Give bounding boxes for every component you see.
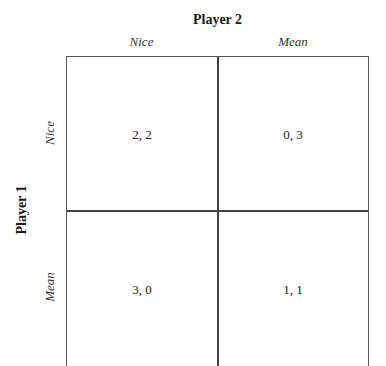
payoff-cell-nice-nice: 2, 2 [67, 127, 217, 143]
row-strategy-mean: Mean [42, 272, 58, 302]
row-strategy-nice: Nice [42, 121, 58, 145]
payoff-cell-mean-nice: 3, 0 [67, 282, 217, 298]
horizontal-divider [67, 210, 368, 212]
payoff-cell-mean-mean: 1, 1 [218, 282, 368, 298]
column-strategy-nice: Nice [66, 34, 217, 50]
payoff-cell-nice-mean: 0, 3 [218, 127, 368, 143]
column-strategy-mean: Mean [217, 34, 369, 50]
player1-label: Player 1 [14, 185, 30, 234]
vertical-divider [217, 57, 219, 366]
player2-label: Player 2 [66, 12, 369, 28]
payoff-matrix: 2, 2 0, 3 3, 0 1, 1 [66, 56, 369, 366]
